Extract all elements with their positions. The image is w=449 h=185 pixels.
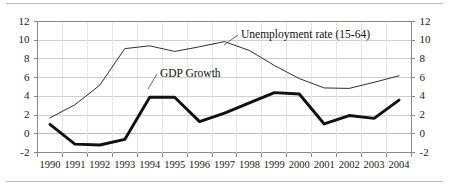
y-axis-left-tick-2: 2: [8, 109, 30, 120]
y-axis-left-tick-8: 8: [8, 53, 30, 64]
y-axis-right-tick-12: 12: [420, 16, 442, 27]
y-axis-right-tick-10: 10: [420, 34, 442, 45]
y-axis-right-tick-4: 4: [420, 90, 442, 101]
y-axis-left-tick-6: 6: [8, 72, 30, 83]
annotation-leader-lines: [148, 35, 238, 89]
y-axis-right-tick-0: 0: [420, 128, 442, 139]
y-axis-right-tick-6: 6: [420, 72, 442, 83]
y-axis-right-tick-neg2: -2: [420, 147, 442, 158]
y-axis-right-tick-2: 2: [420, 109, 442, 120]
x-axis-tick-2004: 2004: [383, 159, 415, 170]
y-axis-left-tick-neg2: -2: [8, 147, 30, 158]
chart-plot-area: [0, 0, 449, 185]
series-label-unemployment-rate: Unemployment rate (15-64): [241, 28, 370, 40]
data-series: [50, 42, 399, 145]
y-axis-left-tick-12: 12: [8, 16, 30, 27]
y-axis-left-tick-10: 10: [8, 34, 30, 45]
y-axis-left-tick-0: 0: [8, 128, 30, 139]
chart-figure: 121086420-2 121086420-2 1990199119921993…: [0, 0, 449, 185]
y-axis-right-tick-8: 8: [420, 53, 442, 64]
y-axis-left-tick-4: 4: [8, 90, 30, 101]
series-label-gdp-growth: GDP Growth: [160, 67, 221, 79]
